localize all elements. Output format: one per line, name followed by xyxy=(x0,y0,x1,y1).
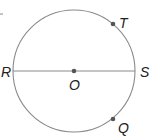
label-o: O xyxy=(69,77,80,93)
label-t: T xyxy=(119,15,129,31)
point-t xyxy=(111,22,116,27)
point-o-center xyxy=(72,69,77,74)
point-q xyxy=(111,117,116,122)
circle-diagram: T O Q R S xyxy=(0,0,158,139)
label-r: R xyxy=(1,64,11,80)
label-q: Q xyxy=(118,120,129,136)
label-s: S xyxy=(140,64,150,80)
